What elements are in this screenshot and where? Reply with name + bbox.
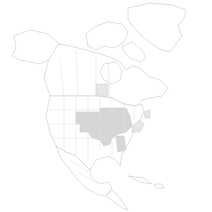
- north-america-map: [0, 0, 212, 212]
- hispaniola: [154, 184, 164, 188]
- central-america: [106, 190, 128, 210]
- highlight-canadian-prairies: [96, 84, 108, 96]
- arctic-islands: [86, 22, 128, 50]
- greenland: [128, 3, 186, 52]
- highlight-deep-south: [116, 136, 126, 152]
- cuba: [128, 176, 152, 184]
- highlight-new-england: [144, 110, 150, 118]
- baffin-island: [122, 42, 146, 62]
